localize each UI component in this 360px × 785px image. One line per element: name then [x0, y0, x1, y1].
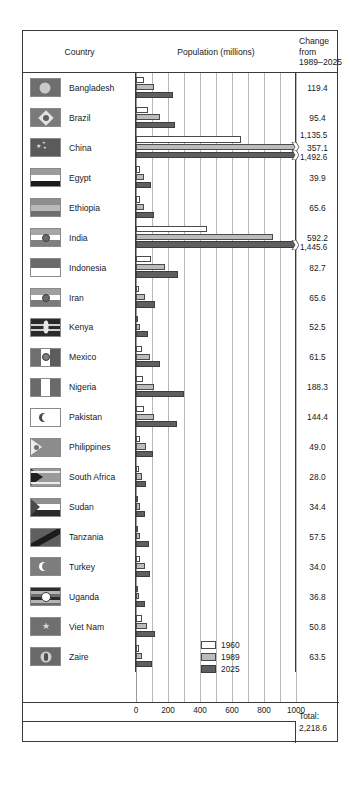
country-name: Bangladesh	[69, 83, 114, 93]
change-cell: 95.4	[296, 103, 339, 133]
change-cell: 592.2	[296, 223, 339, 253]
bar-cell	[136, 342, 296, 372]
country-name: Philippines	[69, 442, 111, 452]
change-value: 49.0	[309, 442, 325, 452]
change-cell: 144.4	[296, 402, 339, 432]
bar-1960	[136, 196, 140, 202]
axis-tick-800: 800	[257, 706, 271, 715]
legend-label: 1989	[221, 652, 240, 662]
country-cell: ★★★China	[23, 133, 136, 163]
bar-1989	[136, 264, 165, 270]
flag-south-africa	[30, 468, 61, 487]
table-row: Turkey34.0	[23, 552, 337, 582]
table-row: Egypt39.9	[23, 163, 337, 193]
change-cell: 49.0	[296, 432, 339, 462]
bar-2025	[136, 301, 155, 307]
total-label: Total:	[299, 711, 319, 722]
country-cell: Iran	[23, 283, 136, 313]
country-name: Nigeria	[69, 382, 96, 392]
bar-group	[136, 432, 295, 462]
bar-2025	[136, 481, 146, 487]
table-row: Ethiopia65.6	[23, 193, 337, 223]
country-cell: Brazil	[23, 103, 136, 133]
country-name: Turkey	[69, 562, 95, 572]
flag-indonesia	[30, 258, 61, 277]
bar-2025	[136, 361, 160, 367]
x-axis: 02004006008001000	[136, 702, 296, 721]
flag-pakistan	[30, 408, 61, 427]
bar-group	[136, 492, 295, 522]
bar-cell: 1,135.51,492.6	[136, 133, 296, 163]
bar-2025	[136, 421, 177, 427]
bar-group	[136, 462, 295, 492]
change-value: 34.0	[309, 562, 325, 572]
axis-tick-600: 600	[225, 706, 239, 715]
table-row: Pakistan144.4	[23, 402, 337, 432]
bar-cell	[136, 253, 296, 283]
bar-2025	[136, 661, 152, 667]
bar-2025	[136, 541, 149, 547]
bar-2025	[136, 152, 296, 158]
bar-cell	[136, 582, 296, 612]
bar-group	[136, 612, 295, 642]
bar-1960	[136, 466, 139, 472]
country-cell: ★Viet Nam	[23, 612, 136, 642]
change-value: 188.3	[307, 382, 328, 392]
change-value: 65.6	[309, 203, 325, 213]
axis-tick-200: 200	[161, 706, 175, 715]
bar-1960	[136, 645, 139, 651]
flag-philippines	[30, 438, 61, 457]
country-name: Sudan	[69, 502, 94, 512]
flag-viet-nam: ★	[30, 617, 61, 636]
bar-1960	[136, 316, 138, 322]
bar-cell	[136, 163, 296, 193]
bar-1989	[136, 563, 145, 569]
country-name: Brazil	[69, 113, 91, 123]
bar-1989	[136, 234, 273, 240]
legend-swatch-2025	[201, 665, 216, 673]
table-row: Philippines49.0	[23, 432, 337, 462]
flag-turkey	[30, 557, 61, 576]
header-country: Country	[23, 31, 136, 73]
country-name: Pakistan	[69, 412, 102, 422]
bar-1960	[136, 376, 143, 382]
bar-2025	[136, 122, 175, 128]
total-value: 2,218.6	[299, 723, 327, 734]
header-change-line1: Change	[299, 36, 329, 46]
country-name: Ethiopia	[69, 203, 100, 213]
country-name: Tanzania	[69, 532, 103, 542]
legend-item: 1989	[201, 651, 259, 663]
bar-cell	[136, 462, 296, 492]
change-value: 52.5	[309, 322, 325, 332]
change-value: 28.0	[309, 472, 325, 482]
country-cell: Uganda	[23, 582, 136, 612]
bar-1960	[136, 286, 139, 292]
country-cell: India	[23, 223, 136, 253]
change-value: 34.4	[309, 502, 325, 512]
bar-1960	[136, 136, 241, 142]
change-cell: 52.5	[296, 313, 339, 343]
country-cell: Turkey	[23, 552, 136, 582]
change-cell: 34.4	[296, 492, 339, 522]
bar-group	[136, 582, 295, 612]
table-header: Country Population (millions) Change fro…	[23, 31, 337, 73]
table-row: Brazil95.4	[23, 103, 337, 133]
bar-2025	[136, 271, 178, 277]
change-cell: 50.8	[296, 612, 339, 642]
bar-1989	[136, 593, 139, 599]
table-row: ★★★China1,135.51,492.6357.1	[23, 133, 337, 163]
table-row: Mexico61.5	[23, 342, 337, 372]
bar-cell	[136, 73, 296, 103]
bar-cell	[136, 612, 296, 642]
country-name: Kenya	[69, 322, 93, 332]
country-name: Iran	[69, 293, 84, 303]
bar-cell	[136, 283, 296, 313]
country-name: Uganda	[69, 592, 99, 602]
bar-2025	[136, 511, 145, 517]
bar-group	[136, 552, 295, 582]
footer-blank-cell	[23, 721, 296, 743]
change-cell: 28.0	[296, 462, 339, 492]
table-row: Zaire63.5	[23, 642, 337, 672]
country-cell: Sudan	[23, 492, 136, 522]
bar-group	[136, 522, 295, 552]
